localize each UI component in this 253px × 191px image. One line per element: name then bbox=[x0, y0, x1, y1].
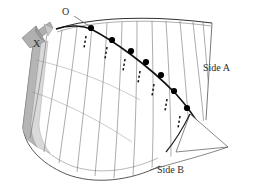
label-side-b: Side B bbox=[157, 164, 184, 175]
hull-diagram-svg bbox=[0, 0, 253, 191]
marked-point bbox=[184, 105, 190, 111]
marked-point bbox=[128, 48, 134, 54]
label-origin: O bbox=[62, 6, 69, 17]
hull-surface bbox=[23, 18, 212, 178]
marked-point bbox=[171, 88, 177, 94]
label-axis-x: X bbox=[33, 38, 40, 49]
marked-point bbox=[143, 59, 149, 65]
label-side-a: Side A bbox=[203, 62, 230, 73]
marked-point bbox=[158, 72, 164, 78]
figure-canvas: O X Side A Side B bbox=[0, 0, 253, 191]
marked-point bbox=[109, 37, 115, 43]
